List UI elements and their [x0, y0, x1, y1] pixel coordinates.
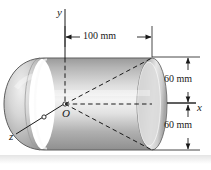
x-axis-label: x: [197, 102, 202, 113]
arrow-upper-bottom: [186, 97, 191, 103]
cap-seam-highlight: [35, 59, 47, 149]
y-axis-label: y: [57, 7, 62, 18]
arrow-upper-top: [186, 58, 191, 64]
figure-canvas: [0, 0, 211, 170]
arrow-lower-top: [186, 105, 191, 111]
arrow-right: [146, 35, 152, 40]
origin-label: O: [62, 108, 70, 119]
engineering-figure: y x z O 100 mm 60 mm 60 mm: [0, 0, 211, 170]
z-axis-marker: [42, 115, 46, 119]
dimension-label-length: 100 mm: [83, 31, 116, 41]
arrow-lower-bottom: [186, 144, 191, 150]
arrow-left: [66, 35, 72, 40]
dimension-label-radius-upper: 60 mm: [164, 74, 192, 84]
ground-shadow: [0, 155, 211, 164]
z-axis-label: z: [9, 131, 13, 142]
dimension-label-radius-lower: 60 mm: [164, 120, 192, 130]
